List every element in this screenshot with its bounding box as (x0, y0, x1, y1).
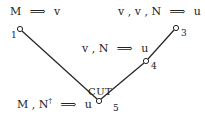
double-arrow-icon: ⟹ (30, 5, 46, 18)
sequent-left: M (10, 5, 21, 18)
proof-diagram: M ⟹ v 1 v , v , N ⟹ u 3 v , N ⟹ u 4 CUT … (0, 0, 205, 118)
sequent-node-4: v , N ⟹ u (82, 43, 148, 55)
node-4-circle (143, 58, 148, 63)
sequent-right: v (54, 5, 60, 18)
sequent-left: v , v , N (118, 5, 161, 18)
sequent-node-1: M ⟹ v (10, 6, 60, 18)
sequent-right: u (194, 5, 201, 18)
node-3-circle (173, 25, 178, 30)
node-1-label: 1 (11, 30, 17, 40)
node-1-circle (17, 26, 22, 31)
edge-3-4 (148, 30, 174, 59)
double-arrow-icon: ⟹ (170, 5, 186, 18)
node-5-circle (96, 98, 101, 103)
node-5-label: 5 (113, 103, 119, 113)
double-arrow-icon: ⟹ (117, 42, 133, 55)
sequent-node-5: M , N† ⟹ u (17, 95, 92, 111)
sequent-left: M , N (17, 98, 48, 111)
node-4-label: 4 (151, 61, 157, 71)
double-arrow-icon: ⟹ (60, 98, 76, 111)
dagger-sup: † (48, 97, 52, 105)
node-3-label: 3 (181, 28, 187, 38)
sequent-node-3: v , v , N ⟹ u (118, 6, 201, 18)
sequent-left: v , N (82, 42, 108, 55)
sequent-right: u (141, 42, 148, 55)
sequent-right: u (85, 98, 92, 111)
